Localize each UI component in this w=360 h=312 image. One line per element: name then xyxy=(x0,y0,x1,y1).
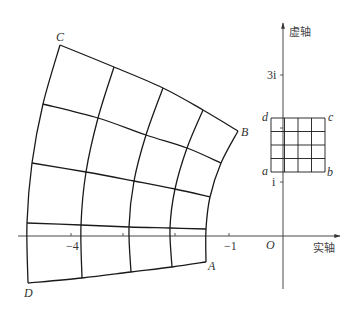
corner-label-b: b xyxy=(327,165,333,179)
corner-label-a: a xyxy=(262,164,268,178)
complex-mapping-diagram: −4−1 i3i 实轴 虚轴 O C B A D d c a b xyxy=(0,0,360,312)
real-tick-label: −4 xyxy=(66,239,79,253)
imag-tick-label: i xyxy=(272,175,276,189)
grid-curve-horizontal xyxy=(32,163,210,197)
imaginary-axis-ticks: i3i xyxy=(267,68,283,189)
origin-label: O xyxy=(266,238,275,252)
corner-label-c: c xyxy=(328,110,334,124)
grid-curve-horizontal xyxy=(28,262,206,283)
grid-curve-vertical xyxy=(129,88,163,272)
axes: −4−1 i3i 实轴 虚轴 O xyxy=(18,23,340,289)
corner-label-A: A xyxy=(207,259,216,273)
grid-curve-horizontal xyxy=(27,223,206,229)
mapped-grid xyxy=(27,45,238,283)
mapped-grid-labels: C B A D xyxy=(23,30,249,300)
imag-tick-label: 3i xyxy=(267,68,277,82)
grid-curve-horizontal xyxy=(43,104,221,163)
grid-curve-vertical xyxy=(27,45,60,283)
real-tick-label: −1 xyxy=(224,239,237,253)
imaginary-axis-label: 虚轴 xyxy=(289,25,311,39)
corner-label-D: D xyxy=(23,286,33,300)
corner-label-B: B xyxy=(241,125,249,139)
source-square-grid xyxy=(271,118,325,172)
grid-curve-horizontal xyxy=(60,45,238,131)
corner-label-C: C xyxy=(56,30,65,44)
corner-label-d: d xyxy=(262,110,269,124)
real-axis-label: 实轴 xyxy=(313,241,335,255)
